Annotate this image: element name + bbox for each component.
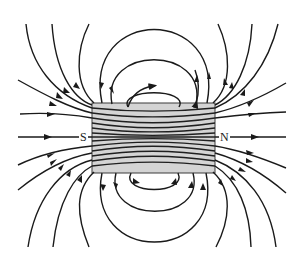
south-pole-label: S [79,131,88,143]
top-loops [100,30,209,108]
field-lines-svg [0,0,302,260]
north-pole-label: N [219,131,230,143]
bar-magnet-field-diagram: S N [0,0,302,260]
